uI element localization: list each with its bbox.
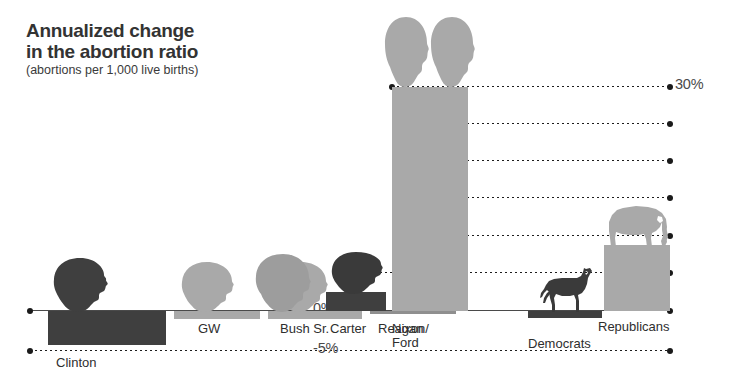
- gridline-15-dashes: [462, 197, 670, 198]
- gridline-0-dot-left: [27, 308, 33, 314]
- two-president-heads-silhouette-nixon: [382, 17, 432, 87]
- category-label-clinton: Clinton: [56, 356, 96, 370]
- gridline-25: [462, 123, 670, 124]
- president-head-silhouette-carter: [328, 252, 386, 294]
- axis-label-30: 30%: [675, 76, 703, 92]
- gridline-25-dot-right: [667, 121, 673, 127]
- gridline-20-dot-right: [667, 158, 673, 164]
- gridline-minus-5-dot-right: [667, 348, 673, 354]
- page-title-line-1: Annualized change: [26, 20, 198, 41]
- abortion-ratio-chart: Annualized change in the abortion ratio …: [0, 0, 744, 387]
- bar-republicans: [604, 245, 670, 311]
- axis-label-minus-5: -5%: [313, 340, 338, 356]
- gridline-minus-5-dot-left: [27, 348, 33, 354]
- bar-nixon-ford: [392, 87, 468, 311]
- category-label-republicans: Republicans: [598, 320, 670, 334]
- two-president-heads-silhouette-ford: [428, 17, 478, 87]
- president-head-silhouette-reagan: [252, 254, 316, 312]
- chart-subtitle: (abortions per 1,000 live births): [26, 63, 198, 78]
- president-head-silhouette-clinton: [50, 258, 112, 312]
- category-label-gw: GW: [198, 322, 220, 336]
- gridline-20: 20%: [462, 160, 670, 161]
- bar-democrats: [528, 311, 602, 318]
- president-head-silhouette-gw: [178, 262, 238, 312]
- page-title-line-2: in the abortion ratio: [26, 41, 198, 62]
- bar-bush-sr: [268, 311, 362, 319]
- category-label-carter: Carter: [330, 322, 366, 336]
- gridline-25-dashes: [462, 123, 670, 124]
- category-label-democrats: Democrats: [528, 337, 591, 351]
- gridline-15-dot-right: [667, 195, 673, 201]
- donkey-silhouette: [540, 267, 596, 312]
- gridline-20-dashes: [462, 160, 670, 161]
- category-label-bush-sr: Bush Sr.: [280, 322, 329, 336]
- chart-title-block: Annualized change in the abortion ratio …: [26, 20, 198, 78]
- bar-carter: [326, 292, 386, 311]
- category-label-nixon-ford-line1: Nixon/: [392, 322, 429, 336]
- bar-reagan: [370, 311, 456, 314]
- category-label-nixon-ford-line2: Ford: [392, 336, 419, 350]
- gridline-15: [462, 197, 670, 198]
- elephant-silhouette: [606, 205, 668, 247]
- bar-clinton: [48, 311, 166, 345]
- gridline-30-dot-right: [667, 84, 673, 90]
- bar-gw: [174, 311, 260, 319]
